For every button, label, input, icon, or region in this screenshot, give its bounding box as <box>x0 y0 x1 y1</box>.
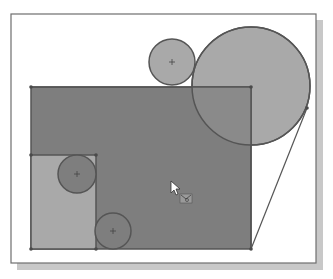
sketch-canvas[interactable] <box>0 0 333 279</box>
